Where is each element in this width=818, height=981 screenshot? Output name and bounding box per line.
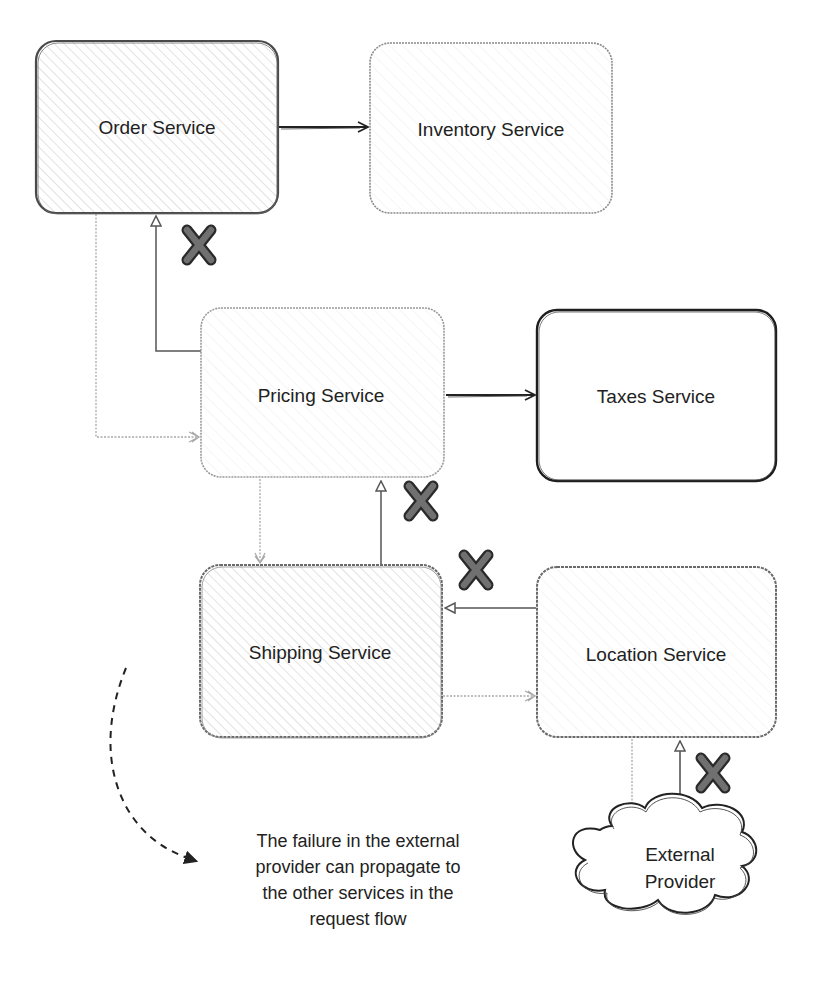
node-external-provider[interactable]: External Provider <box>573 794 756 915</box>
node-label: Location Service <box>586 644 726 665</box>
x-mark-icon <box>187 230 211 260</box>
node-shipping-service[interactable]: Shipping Service <box>200 565 442 738</box>
edge-pricing-to-taxes <box>446 395 535 397</box>
node-label: Pricing Service <box>258 385 385 406</box>
annotation-line-4: request flow <box>309 909 407 929</box>
architecture-diagram: Order Service Inventory Service Pricing … <box>0 0 818 981</box>
node-taxes-service[interactable]: Taxes Service <box>537 310 776 481</box>
node-location-service[interactable]: Location Service <box>537 567 776 737</box>
node-label: Shipping Service <box>249 642 392 663</box>
annotation-line-3: the other services in the <box>262 883 453 903</box>
node-label: Inventory Service <box>418 119 565 140</box>
x-mark-icon <box>701 758 725 788</box>
node-label: Taxes Service <box>597 386 715 407</box>
edge-order-to-pricing <box>96 214 199 437</box>
node-label-line-2: Provider <box>645 871 716 892</box>
node-pricing-service[interactable]: Pricing Service <box>201 308 444 477</box>
annotation-curved-arrow <box>110 668 196 861</box>
node-label-line-1: External <box>645 844 715 865</box>
x-mark-icon <box>464 555 488 585</box>
x-mark-icon <box>409 486 433 516</box>
node-inventory-service[interactable]: Inventory Service <box>370 43 612 213</box>
annotation-note: The failure in the external provider can… <box>255 831 460 929</box>
node-order-service[interactable]: Order Service <box>36 41 278 214</box>
edge-order-to-inventory <box>279 127 368 129</box>
annotation-line-1: The failure in the external <box>256 831 459 851</box>
annotation-line-2: provider can propagate to <box>255 857 460 877</box>
node-label: Order Service <box>98 117 215 138</box>
